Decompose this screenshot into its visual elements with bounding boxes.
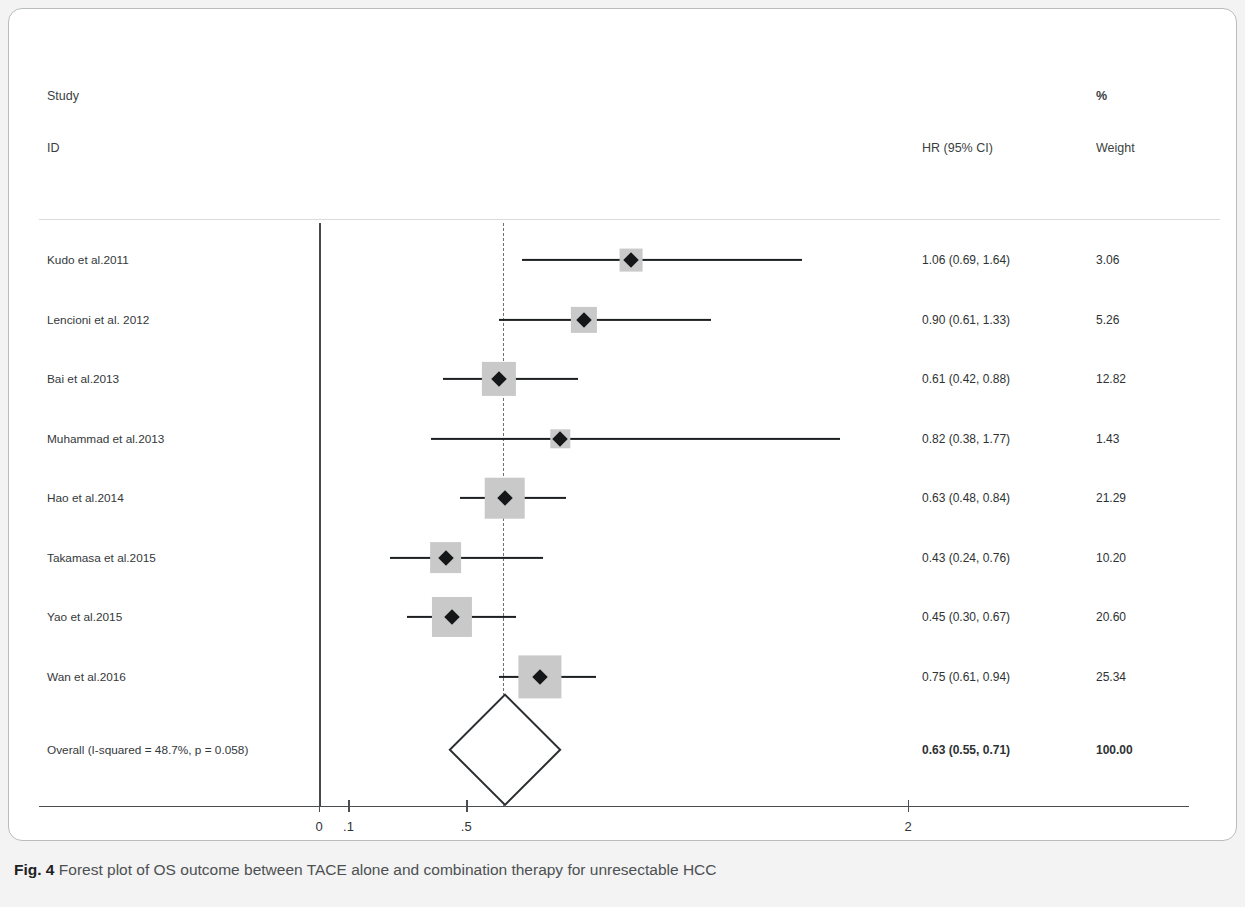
- weight-value: 3.06: [1096, 253, 1119, 267]
- confidence-interval-line: [499, 318, 711, 320]
- hr-value: 0.45 (0.30, 0.67): [922, 610, 1010, 624]
- confidence-interval-line: [431, 437, 840, 439]
- x-axis-tick-label: 0: [315, 819, 322, 834]
- x-axis-tick: [348, 800, 349, 812]
- x-axis-tick-label: .5: [461, 819, 472, 834]
- overall-hr-value: 0.63 (0.55, 0.71): [922, 743, 1010, 757]
- header-separator: [39, 219, 1220, 220]
- column-header-study: Study: [47, 89, 79, 103]
- weight-value: 20.60: [1096, 610, 1126, 624]
- column-header-hr: HR (95% CI): [922, 141, 993, 155]
- null-effect-line: [319, 223, 321, 806]
- figure-caption-text: Forest plot of OS outcome between TACE a…: [59, 861, 717, 878]
- figure-caption-label: Fig. 4: [14, 861, 54, 878]
- weight-value: 1.43: [1096, 432, 1119, 446]
- weight-value: 12.82: [1096, 372, 1126, 386]
- overall-weight-value: 100.00: [1096, 743, 1133, 757]
- overall-summary-diamond: [448, 693, 562, 807]
- hr-value: 0.63 (0.48, 0.84): [922, 491, 1010, 505]
- x-axis-tick-label: 2: [904, 819, 911, 834]
- column-header-id: ID: [47, 141, 60, 155]
- overall-label: Overall (I-squared = 48.7%, p = 0.058): [47, 743, 248, 757]
- figure-caption: Fig. 4 Forest plot of OS outcome between…: [14, 861, 1224, 879]
- x-axis-tick: [466, 800, 467, 812]
- confidence-interval-line: [390, 556, 543, 558]
- column-header-weight: Weight: [1096, 141, 1135, 155]
- study-label: Wan et al.2016: [47, 670, 126, 684]
- figure-panel: Study ID % HR (95% CI) Weight Kudo et al…: [8, 8, 1237, 841]
- x-axis-tick-label: .1: [343, 819, 354, 834]
- study-label: Hao et al.2014: [47, 491, 124, 505]
- weight-value: 10.20: [1096, 551, 1126, 565]
- hr-value: 0.75 (0.61, 0.94): [922, 670, 1010, 684]
- hr-value: 1.06 (0.69, 1.64): [922, 253, 1010, 267]
- hr-value: 0.61 (0.42, 0.88): [922, 372, 1010, 386]
- study-label: Kudo et al.2011: [47, 253, 129, 267]
- confidence-interval-line: [522, 259, 802, 261]
- study-label: Takamasa et al.2015: [47, 551, 156, 565]
- x-axis-tick: [319, 800, 320, 812]
- x-axis-tick: [908, 800, 909, 812]
- weight-value: 21.29: [1096, 491, 1126, 505]
- study-label: Muhammad et al.2013: [47, 432, 164, 446]
- forest-plot: Study ID % HR (95% CI) Weight Kudo et al…: [9, 9, 1237, 841]
- hr-value: 0.43 (0.24, 0.76): [922, 551, 1010, 565]
- weight-value: 25.34: [1096, 670, 1126, 684]
- weight-value: 5.26: [1096, 313, 1119, 327]
- hr-value: 0.90 (0.61, 1.33): [922, 313, 1010, 327]
- study-label: Yao et al.2015: [47, 610, 122, 624]
- x-axis-line: [39, 806, 1189, 807]
- study-label: Lencioni et al. 2012: [47, 313, 149, 327]
- column-header-percent: %: [1096, 89, 1107, 103]
- study-label: Bai et al.2013: [47, 372, 119, 386]
- hr-value: 0.82 (0.38, 1.77): [922, 432, 1010, 446]
